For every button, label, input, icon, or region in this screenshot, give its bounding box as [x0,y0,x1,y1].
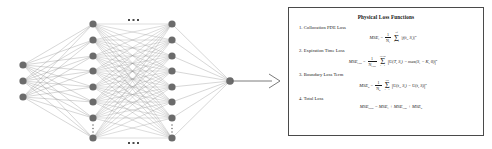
network-svg [0,0,286,149]
f1-coef-den: Nf [385,38,391,42]
hidden-node [89,134,96,141]
edges-hidden2-to-output [172,24,230,138]
loss-item-1-index: 1. [299,25,303,30]
hidden-node [168,134,175,141]
hidden-node [168,98,175,105]
f3-body-end: ) − U(t, S) [405,83,424,88]
loss-item-2-label: 2. Expiration Time Loss [299,48,477,53]
f2-body: U(T, S [389,59,400,64]
hidden-layer-1-nodes [89,20,96,141]
hidden-layer-2-nodes [168,20,175,141]
f4-eq: = MSE [374,104,388,109]
hidden2-vertical-ellipsis-icon [171,124,172,132]
loss-item-2-formula: MSEexp = 1 Nexp Nexp Σ i = 1 |U(T, Si) −… [295,56,477,68]
f3-coefficient: 1 Nb [375,81,381,91]
loss-item-4-index: 4. [299,96,303,101]
f2-body-end: − K, 0) [420,59,434,64]
f1-coef-den-sub: f [389,40,390,44]
loss-item-boundary: 3. Boundary Loss Term MSEb = 1 Nb Nb Σ i… [295,72,477,91]
loss-item-3-index: 3. [299,72,303,77]
loss-item-2-text: Expiration Time Loss [304,48,345,53]
f2-lhs: MSE [349,59,358,64]
edges-hidden1-to-hidden2 [93,24,172,138]
loss-item-2-index: 2. [299,48,303,53]
hidden-node [168,114,175,121]
f4-total-sub: total [368,106,373,110]
loss-item-total: 4. Total Loss MSEtotal = MSEf + MSEexp +… [295,96,477,109]
f3-equals: = [371,83,374,88]
loss-item-3-text: Boundary Loss Term [304,72,344,77]
loss-item-4-text: Total Loss [304,96,324,101]
loss-item-collocation-pde: 1. Collocation PDE Loss MSEf = 1 Nf Nf Σ… [295,25,477,44]
input-layer-nodes [19,61,26,100]
f2-coef-den: Nexp [368,62,377,66]
f3-lhs-sub: b [368,85,369,89]
f2-coef-den-sub: exp [371,64,375,68]
f4-t1-sub: f [388,106,389,110]
hidden-node [89,36,96,43]
f3-power: 2 [425,82,426,86]
f1-body-sub2: i [412,37,413,41]
f2-power: 2 [436,58,437,62]
input-node [19,93,26,100]
f3-coef-den-sub: b [379,88,380,92]
input-node [19,61,26,68]
hidden-node [168,67,175,74]
f3-lhs: MSE [359,83,368,88]
f2-body-mid: ) − max(S [401,59,419,64]
f2-body-sub2: i [419,61,420,65]
f4-plus1: + MSE [389,104,403,109]
loss-item-3-label: 3. Boundary Loss Term [299,72,477,77]
f3-sum-bot: i = 1 [385,89,390,92]
hidden1-vertical-ellipsis-icon [92,124,93,132]
hidden-node [168,20,175,27]
physical-loss-functions-panel: Physical Loss Functions 1. Collocation P… [288,7,484,136]
f2-lhs-sub: exp [358,61,362,65]
hidden-node [168,52,175,59]
hidden-node [89,98,96,105]
hidden-node [89,83,96,90]
hidden-node [168,36,175,43]
f2-summation-symbol: Nexp Σ i = 1 [380,56,386,68]
f2-coefficient: 1 Nexp [368,57,377,67]
hidden-node [89,67,96,74]
loss-item-4-label: 4. Total Loss [299,96,477,101]
loss-item-3-formula: MSEb = 1 Nb Nb Σ i = 1 |U(ti, Si) − U(t,… [295,80,477,92]
f1-coefficient: 1 Nf [385,33,391,43]
f4-plus2: + MSE [407,104,421,109]
hidden-layers-bottom-ellipsis-icon [128,142,139,144]
hidden-node [89,114,96,121]
hidden-layers-top-ellipsis-icon [128,19,139,21]
f4-t3-sub: b [421,106,422,110]
f1-sum-bot: i = 1 [394,41,399,44]
panel-title: Physical Loss Functions [295,14,477,20]
f2-equals: = [363,59,366,64]
loss-item-1-text: Collocation PDE Loss [304,25,346,30]
f1-equals: = [380,35,383,40]
loss-item-1-label: 1. Collocation PDE Loss [299,25,477,30]
f3-coef-den: Nb [375,86,381,90]
loss-item-4-formula: MSEtotal = MSEf + MSEexp + MSEb [295,104,477,109]
neural-network-diagram [0,0,286,149]
input-node [19,77,26,84]
edges-input-to-hidden1 [23,24,93,138]
pinn-architecture-figure: Physical Loss Functions 1. Collocation P… [0,0,492,149]
f1-summation-symbol: Nf Σ i = 1 [394,32,399,44]
hidden-node [168,83,175,90]
hidden-node [89,20,96,27]
f1-power: 2 [415,34,416,38]
hidden-node [89,52,96,59]
loss-item-1-formula: MSEf = 1 Nf Nf Σ i = 1 |f(ti, Si)|2 [295,32,477,44]
f2-sum-bot: i = 1 [380,65,386,68]
f3-body-sub: i [399,85,400,89]
f3-summation-symbol: Nb Σ i = 1 [385,80,390,92]
loss-item-expiration-time: 2. Expiration Time Loss MSEexp = 1 Nexp … [295,48,477,67]
f4-t2-sub: exp [403,106,407,110]
output-to-panel-arrow-icon [232,74,280,88]
